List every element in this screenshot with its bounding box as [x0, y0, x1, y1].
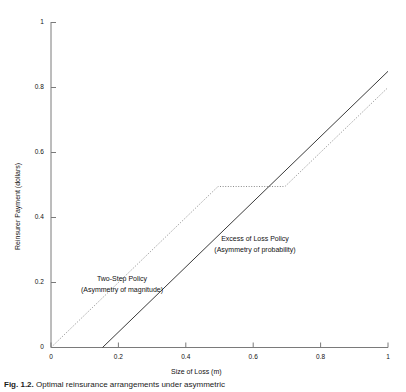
- y-axis-title: Reinsurer Payment (dollars): [14, 163, 21, 250]
- x-tick-label-5: 1: [378, 353, 398, 360]
- figure-caption-label: Fig. 1.2.: [4, 380, 34, 389]
- x-tick-label-3: 0.6: [243, 353, 263, 360]
- y-tick-label-3: 0.6: [26, 148, 44, 155]
- annotation-excess-line2: (Asymmetry of probability): [180, 244, 330, 255]
- figure-caption: Fig. 1.2. Optimal reinsurance arrangemen…: [4, 379, 404, 390]
- x-tick-label-1: 0.2: [108, 353, 128, 360]
- series-excess-of-loss-policy: [103, 71, 389, 347]
- y-axis-ticks: [51, 23, 56, 348]
- annotation-two-step-policy: Two-Step Policy (Asymmetry of magnitude): [52, 273, 192, 295]
- annotation-excess-of-loss-policy: Excess of Loss Policy (Asymmetry of prob…: [180, 233, 330, 255]
- annotation-two-step-line1: Two-Step Policy: [52, 273, 192, 284]
- x-tick-label-4: 0.8: [311, 353, 331, 360]
- x-axis-title: Size of Loss (m): [171, 368, 222, 375]
- y-tick-label-0: 0: [26, 343, 44, 350]
- x-tick-label-2: 0.4: [176, 353, 196, 360]
- y-tick-label-4: 0.8: [26, 83, 44, 90]
- figure-caption-text: Optimal reinsurance arrangements under a…: [34, 380, 225, 389]
- figure-container: 0 0.2 0.4 0.6 0.8 1 0 0.2 0.4 0.6 0.8 1 …: [0, 0, 406, 392]
- y-tick-label-2: 0.4: [26, 213, 44, 220]
- chart-plot: [0, 0, 406, 392]
- annotation-excess-line1: Excess of Loss Policy: [180, 233, 330, 244]
- y-tick-label-5: 1: [26, 18, 44, 25]
- x-axis-ticks: [51, 343, 388, 348]
- x-tick-label-0: 0: [41, 353, 61, 360]
- y-tick-label-1: 0.2: [26, 278, 44, 285]
- series-two-step-policy: [51, 88, 388, 348]
- annotation-two-step-line2: (Asymmetry of magnitude): [52, 284, 192, 295]
